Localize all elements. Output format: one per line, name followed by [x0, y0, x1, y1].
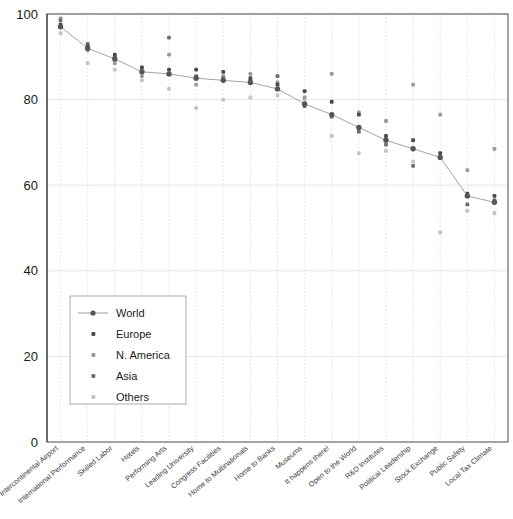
world-data-point: [221, 78, 226, 83]
data-point: [140, 78, 144, 82]
legend-label: Others: [116, 391, 150, 403]
y-tick-label: 80: [24, 92, 38, 107]
world-data-point: [356, 125, 361, 130]
world-data-point: [139, 69, 144, 74]
data-point: [438, 230, 442, 234]
data-point: [221, 70, 225, 74]
chart-container: 020406080100Intercontinental AirportInte…: [0, 0, 513, 519]
data-point: [303, 89, 307, 93]
data-point: [357, 130, 361, 134]
data-point: [411, 83, 415, 87]
data-point: [465, 209, 469, 213]
data-point: [59, 19, 63, 23]
data-point: [113, 61, 117, 65]
world-data-point: [438, 155, 443, 160]
data-point: [167, 87, 171, 91]
data-point: [86, 61, 90, 65]
data-point: [384, 143, 388, 147]
y-tick-label: 0: [31, 435, 38, 450]
legend-marker: [92, 332, 96, 336]
legend: WorldEuropeN. AmericaAsiaOthers: [70, 296, 186, 404]
world-data-point: [112, 56, 117, 61]
legend-marker: [92, 353, 96, 357]
data-point: [493, 211, 497, 215]
y-tick-label: 100: [16, 7, 38, 22]
legend-marker: [92, 374, 96, 378]
data-point: [194, 83, 198, 87]
data-point: [357, 113, 361, 117]
world-data-point: [465, 193, 470, 198]
data-point: [330, 72, 334, 76]
data-point: [411, 138, 415, 142]
data-point: [194, 68, 198, 72]
data-point: [221, 98, 225, 102]
world-data-point: [58, 24, 63, 29]
x-tick-label: Open to the World: [307, 444, 359, 489]
data-point: [465, 168, 469, 172]
world-data-point: [383, 138, 388, 143]
data-point: [303, 96, 307, 100]
y-tick-label: 40: [24, 263, 38, 278]
data-point: [384, 119, 388, 123]
data-point: [113, 53, 117, 57]
world-data-point: [329, 112, 334, 117]
world-data-point: [193, 76, 198, 81]
data-point: [330, 134, 334, 138]
world-data-point: [302, 101, 307, 106]
world-data-point: [492, 200, 497, 205]
x-tick-label: Hotels: [119, 443, 141, 464]
legend-label: Europe: [116, 328, 151, 340]
legend-label: N. America: [116, 349, 171, 361]
data-point: [248, 76, 252, 80]
y-tick-label: 60: [24, 178, 38, 193]
data-point: [438, 113, 442, 117]
data-point: [438, 151, 442, 155]
data-point: [248, 72, 252, 76]
world-data-point: [410, 146, 415, 151]
data-point: [140, 66, 144, 70]
data-point: [411, 160, 415, 164]
series-europe: [59, 23, 497, 198]
y-axis-tick-labels: 020406080100: [16, 7, 38, 450]
data-point: [384, 134, 388, 138]
data-point: [167, 68, 171, 72]
data-point: [465, 203, 469, 207]
data-point: [330, 100, 334, 104]
data-point: [411, 164, 415, 168]
data-point: [248, 96, 252, 100]
legend-marker: [90, 310, 95, 315]
world-trend-line: [61, 27, 495, 202]
data-point: [276, 83, 280, 87]
data-point: [113, 68, 117, 72]
data-point: [276, 74, 280, 78]
data-point: [276, 93, 280, 97]
data-point: [493, 147, 497, 151]
legend-label: Asia: [116, 370, 138, 382]
x-tick-label: Local Tax Climate: [443, 444, 493, 488]
scatter-chart: 020406080100Intercontinental AirportInte…: [0, 0, 513, 519]
legend-marker: [92, 395, 96, 399]
data-point: [194, 106, 198, 110]
y-tick-label: 20: [24, 349, 38, 364]
world-data-point: [275, 86, 280, 91]
world-data-point: [85, 46, 90, 51]
data-point: [167, 36, 171, 40]
world-data-point: [166, 71, 171, 76]
data-point: [384, 149, 388, 153]
data-point: [493, 194, 497, 198]
data-point: [59, 31, 63, 35]
data-point: [140, 74, 144, 78]
world-data-point: [248, 80, 253, 85]
x-axis-category-labels: Intercontinental AirportInternational Pe…: [0, 443, 494, 505]
data-point: [167, 53, 171, 57]
data-point: [357, 151, 361, 155]
legend-label: World: [116, 307, 145, 319]
